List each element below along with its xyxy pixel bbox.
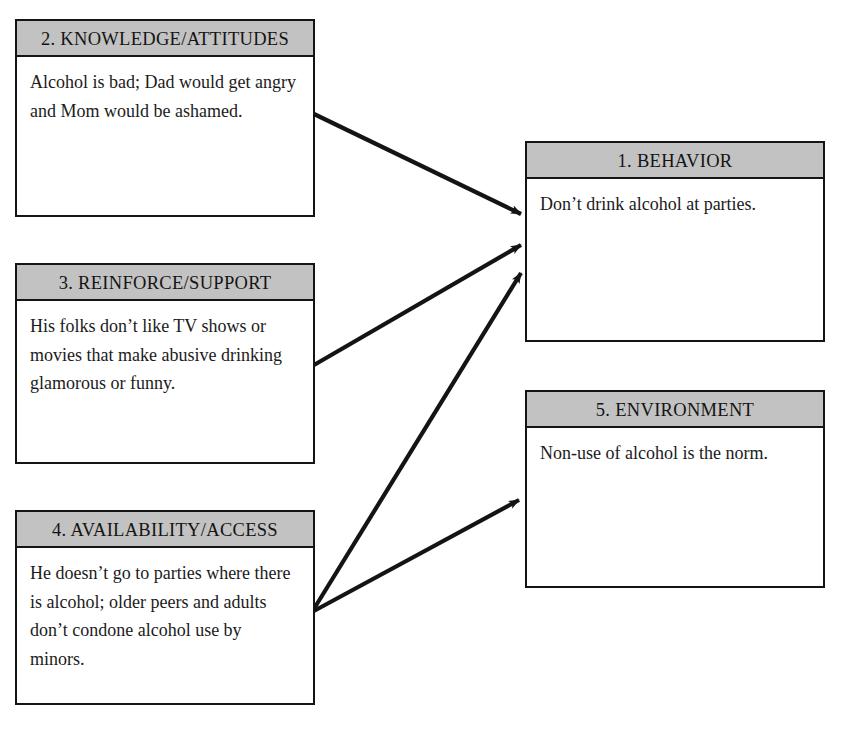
node-knowledge-attitudes-body: Alcohol is bad; Dad would get angry and …	[17, 57, 313, 215]
node-behavior-header: 1. BEHAVIOR	[527, 143, 823, 179]
node-availability-access-body: He doesn’t go to parties where there is …	[17, 548, 313, 703]
node-behavior[interactable]: 1. BEHAVIOR Don’t drink alcohol at parti…	[525, 141, 825, 342]
node-environment-header: 5. ENVIRONMENT	[527, 392, 823, 428]
node-reinforce-support[interactable]: 3. REINFORCE/SUPPORT His folks don’t lik…	[15, 263, 315, 464]
arrow-availability-to-environment	[312, 500, 519, 612]
node-environment[interactable]: 5. ENVIRONMENT Non-use of alcohol is the…	[525, 390, 825, 588]
node-knowledge-attitudes[interactable]: 2. KNOWLEDGE/ATTITUDES Alcohol is bad; D…	[15, 19, 315, 217]
node-behavior-body: Don’t drink alcohol at parties.	[527, 179, 823, 340]
node-knowledge-attitudes-header: 2. KNOWLEDGE/ATTITUDES	[17, 21, 313, 57]
arrow-reinforce-to-behavior	[314, 245, 521, 365]
node-reinforce-support-header: 3. REINFORCE/SUPPORT	[17, 265, 313, 301]
diagram-canvas: 2. KNOWLEDGE/ATTITUDES Alcohol is bad; D…	[0, 0, 843, 729]
node-availability-access-header: 4. AVAILABILITY/ACCESS	[17, 512, 313, 548]
arrow-availability-to-behavior	[312, 273, 521, 612]
arrow-knowledge-to-behavior	[314, 114, 521, 214]
node-availability-access[interactable]: 4. AVAILABILITY/ACCESS He doesn’t go to …	[15, 510, 315, 705]
node-environment-body: Non-use of alcohol is the norm.	[527, 428, 823, 586]
node-reinforce-support-body: His folks don’t like TV shows or movies …	[17, 301, 313, 462]
